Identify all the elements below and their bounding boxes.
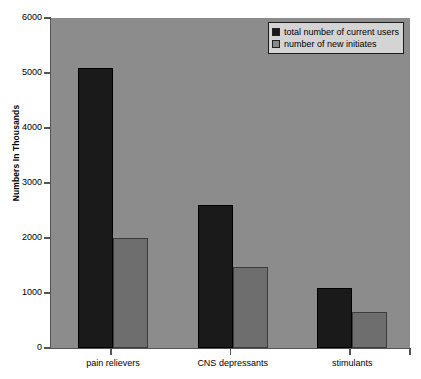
bar-stimulants-series-1 [352,312,387,348]
y-axis-tick-label: 4000 [0,123,42,132]
x-axis-tick [110,349,111,355]
bar-CNS-depressants-series-1 [233,267,268,348]
y-axis-tick-label: 2000 [0,233,42,242]
y-axis-tick [44,292,51,293]
x-axis-tick-label: pain relievers [53,359,173,368]
legend-item: number of new initiates [272,38,399,50]
y-axis-tick [44,347,51,348]
bar-pain-relievers-series-0 [78,68,113,349]
bar-pain-relievers-series-1 [113,238,148,348]
x-axis-tick-end [409,349,410,355]
y-axis-title: Numbers In Thousands [11,73,21,233]
legend-swatch-icon [272,40,280,48]
y-axis-tick [44,72,51,73]
bar-CNS-depressants-series-0 [198,205,233,348]
y-axis-tick [44,182,51,183]
plot-area: total number of current usersnumber of n… [51,18,410,348]
y-axis-tick [44,127,51,128]
y-axis-tick-label: 3000 [0,178,42,187]
bar-chart: Numbers In Thousands total number of cur… [0,0,421,379]
y-axis-tick-label: 0 [0,343,42,352]
y-axis-tick-label: 6000 [0,13,42,22]
legend-label: total number of current users [284,28,399,37]
bar-stimulants-series-0 [317,288,352,349]
legend-label: number of new initiates [284,40,377,49]
legend-item: total number of current users [272,26,399,38]
chart-legend: total number of current usersnumber of n… [268,22,404,54]
y-axis-tick [44,237,51,238]
x-axis-tick-label: CNS depressants [173,359,293,368]
x-axis-tick [349,349,350,355]
x-axis-tick [230,349,231,355]
y-axis-tick-label: 1000 [0,288,42,297]
x-axis-tick-label: stimulants [292,359,412,368]
y-axis-tick-label: 5000 [0,68,42,77]
legend-swatch-icon [272,28,280,36]
y-axis-tick [44,17,51,18]
